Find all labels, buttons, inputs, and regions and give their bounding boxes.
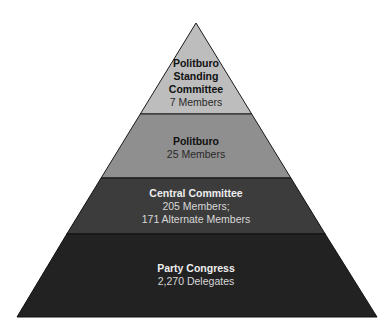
- tier-detail: 205 Members;: [116, 200, 276, 213]
- tier-title: Politburo: [146, 57, 246, 70]
- label-politburo: Politburo 25 Members: [126, 135, 266, 161]
- tier-detail: 7 Members: [146, 96, 246, 109]
- tier-title: Committee: [146, 83, 246, 96]
- label-politburo-standing-committee: Politburo Standing Committee 7 Members: [146, 57, 246, 109]
- label-party-congress: Party Congress 2,270 Delegates: [126, 262, 266, 288]
- tier-detail: 25 Members: [126, 148, 266, 161]
- tier-detail: 2,270 Delegates: [126, 275, 266, 288]
- tier-detail: 171 Alternate Members: [116, 213, 276, 226]
- tier-title: Politburo: [126, 135, 266, 148]
- tier-title: Standing: [146, 70, 246, 83]
- tier-title: Central Committee: [116, 187, 276, 200]
- tier-title: Party Congress: [126, 262, 266, 275]
- label-central-committee: Central Committee 205 Members; 171 Alter…: [116, 187, 276, 226]
